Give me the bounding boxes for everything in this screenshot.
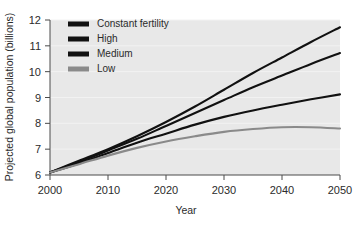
y-tick-label-9: 9 <box>35 92 41 104</box>
y-tick-label-7: 7 <box>35 143 41 155</box>
legend-swatch-medium <box>68 52 89 57</box>
x-axis-title: Year <box>175 204 197 216</box>
legend-label-low: Low <box>97 63 116 74</box>
y-tick-label-12: 12 <box>29 14 41 26</box>
legend-label-constant-fertility: Constant fertility <box>97 18 169 29</box>
y-tick-label-11: 11 <box>30 40 41 52</box>
legend-label-high: High <box>97 33 118 44</box>
y-tick-label-6: 6 <box>35 169 41 181</box>
y-tick-label-10: 10 <box>29 66 41 78</box>
x-tick-label-2030: 2030 <box>212 184 236 196</box>
legend-swatch-constant-fertility <box>68 22 89 27</box>
legend-swatch-high <box>68 37 89 42</box>
x-tick-label-2020: 2020 <box>154 184 178 196</box>
x-tick-label-2050: 2050 <box>328 184 352 196</box>
chart-figure: 6789101112 200020102020203020402050 Year… <box>0 0 357 226</box>
legend-swatch-low <box>68 67 89 72</box>
population-projection-chart: 6789101112 200020102020203020402050 Year… <box>0 0 357 226</box>
legend-label-medium: Medium <box>97 48 133 59</box>
y-axis-title: Projected global population (billions) <box>3 13 15 182</box>
y-tick-label-8: 8 <box>35 117 41 129</box>
x-tick-label-2000: 2000 <box>38 184 62 196</box>
x-tick-label-2010: 2010 <box>96 184 120 196</box>
x-tick-label-2040: 2040 <box>270 184 294 196</box>
